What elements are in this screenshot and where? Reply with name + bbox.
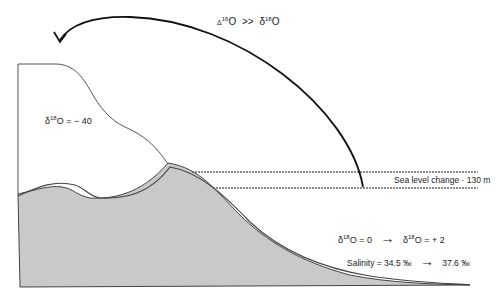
isotope-18-2: 18	[408, 234, 415, 240]
oxygen-symbol: O	[228, 16, 236, 27]
diagram-canvas	[0, 0, 498, 296]
isotope-18: 18	[343, 234, 350, 240]
top-label: Δ16O >> δ18O	[217, 16, 279, 27]
relation-symbol: >>	[242, 16, 254, 27]
ice-sheet	[18, 64, 168, 194]
arrow-right-icon: →	[380, 230, 394, 246]
ocean-delta-label: δ18O = 0 → δ18O = + 2	[338, 230, 445, 246]
salinity-from: Salinity = 34.5 ‰	[347, 258, 412, 268]
salinity-to: 37.6 ‰	[442, 258, 469, 268]
oxygen-symbol-2: O	[272, 16, 280, 27]
ice-value: O = − 40	[57, 116, 92, 126]
sea-level-label: Sea level change · 130 m	[394, 175, 490, 185]
ocean-delta-from: O = 0	[350, 235, 372, 245]
isotope-18: 18	[50, 115, 57, 121]
isotope-18: 18	[265, 16, 272, 22]
ice-label: δ18O = − 40	[45, 115, 92, 126]
salinity-label: Salinity = 34.5 ‰ → 37.6 ‰	[347, 253, 470, 269]
arrow-right-icon: →	[420, 253, 434, 269]
ocean-delta-to: O = + 2	[415, 235, 445, 245]
